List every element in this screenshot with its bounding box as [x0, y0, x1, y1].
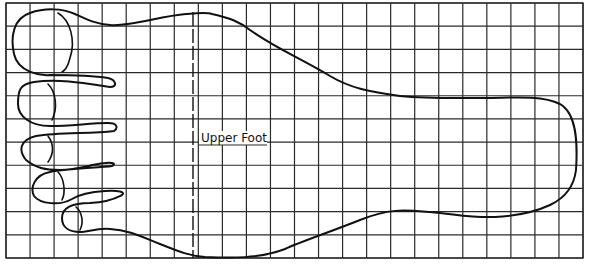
foot-grid-diagram: Upper Foot: [0, 0, 590, 266]
diagram-canvas: Upper Foot: [0, 0, 590, 266]
upper-foot-label: Upper Foot: [201, 131, 267, 145]
